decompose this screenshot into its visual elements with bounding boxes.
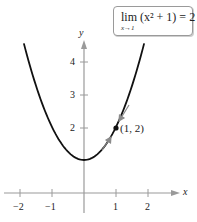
x-tick-label: −2 bbox=[13, 202, 24, 212]
y-axis-arrow-icon bbox=[81, 40, 87, 49]
y-tick-label: 2 bbox=[70, 123, 75, 133]
point-label: (1, 2) bbox=[120, 123, 144, 133]
x-tick-label: 1 bbox=[113, 202, 118, 212]
x-tick-label: −1 bbox=[45, 202, 56, 212]
limit-subscript: x→1 bbox=[121, 24, 135, 32]
y-axis-label: y bbox=[79, 28, 83, 38]
limit-graph-figure: lim (x² + 1) = 2 x→1 y x −2 −1 1 2 4 3 2… bbox=[0, 0, 197, 222]
y-tick-label: 3 bbox=[70, 90, 75, 100]
limit-expression: lim (x² + 1) = 2 bbox=[121, 10, 195, 25]
point-1-2 bbox=[113, 125, 118, 130]
limit-annotation-box: lim (x² + 1) = 2 x→1 bbox=[113, 6, 193, 36]
x-axis-arrow-icon bbox=[171, 190, 180, 196]
y-tick-label: 4 bbox=[70, 57, 75, 67]
approach-arrow-from-below bbox=[102, 137, 111, 150]
x-axis-label: x bbox=[183, 187, 187, 197]
x-tick-label: 2 bbox=[145, 202, 150, 212]
